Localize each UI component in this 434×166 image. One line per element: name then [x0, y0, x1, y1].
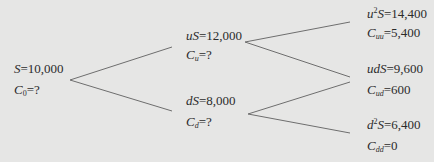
option-subscript: ud: [376, 89, 384, 98]
equals-sign: =: [27, 82, 34, 97]
node-down: dS=8,000 Cd=?: [186, 91, 236, 131]
node-up-down: udS=9,600 Cud=600: [367, 59, 423, 99]
option-value: ?: [206, 47, 212, 62]
upup-price: u2S=14,400: [367, 4, 427, 23]
option-symbol: C: [367, 25, 376, 40]
equals-sign: =: [384, 138, 391, 153]
updown-price: udS=9,600: [367, 59, 423, 78]
down-option: Cd=?: [186, 112, 236, 131]
root-price: S=10,000: [14, 59, 64, 78]
option-symbol: C: [367, 82, 376, 97]
bottom-margin: [0, 162, 434, 166]
option-value: 5,400: [391, 25, 420, 40]
price-value: 6,400: [391, 117, 420, 132]
price-value: 8,000: [206, 93, 235, 108]
option-symbol: C: [14, 82, 23, 97]
equals-sign: =: [21, 61, 28, 76]
option-symbol: C: [186, 114, 195, 129]
up-price: uS=12,000: [186, 26, 242, 45]
node-up: uS=12,000 Cu=?: [186, 26, 242, 64]
updown-option: Cud=600: [367, 80, 423, 99]
edge-root-down: [70, 80, 172, 111]
price-value: 14,400: [391, 6, 427, 21]
node-up-up: u2S=14,400 Cuu=5,400: [367, 4, 427, 42]
option-subscript: dd: [376, 145, 384, 154]
binomial-tree-diagram: S=10,000 C0=? uS=12,000 Cu=? dS=8,000 Cd…: [0, 0, 434, 162]
node-down-down: d2S=6,400 Cdd=0: [367, 115, 421, 155]
equals-sign: =: [387, 61, 394, 76]
equals-sign: =: [384, 82, 391, 97]
option-symbol: C: [367, 138, 376, 153]
price-prefix: ud: [367, 61, 380, 76]
equals-sign: =: [384, 25, 391, 40]
option-value: ?: [206, 114, 212, 129]
root-option: C0=?: [14, 80, 64, 99]
price-value: 10,000: [28, 61, 64, 76]
price-value: 9,600: [394, 61, 423, 76]
upup-option: Cuu=5,400: [367, 23, 427, 42]
edge-down-updown: [248, 82, 350, 114]
price-value: 12,000: [206, 28, 242, 43]
option-value: 0: [391, 138, 398, 153]
edge-up-updown: [245, 42, 350, 77]
option-value: ?: [34, 82, 40, 97]
equals-sign: =: [199, 47, 206, 62]
option-value: 600: [391, 82, 411, 97]
edge-up-upup: [245, 22, 350, 42]
edge-down-downdown: [248, 114, 350, 133]
node-root: S=10,000 C0=?: [14, 59, 64, 99]
option-symbol: C: [186, 47, 195, 62]
up-option: Cu=?: [186, 45, 242, 64]
downdown-option: Cdd=0: [367, 136, 421, 155]
edge-root-up: [70, 47, 172, 80]
down-price: dS=8,000: [186, 91, 236, 110]
equals-sign: =: [199, 114, 206, 129]
option-subscript: uu: [376, 32, 384, 41]
downdown-price: d2S=6,400: [367, 115, 421, 134]
